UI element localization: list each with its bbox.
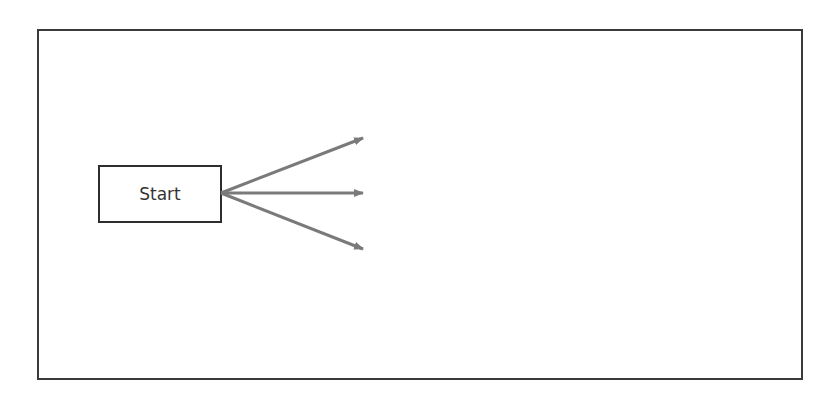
start-node: Start [98, 165, 222, 223]
start-node-label: Start [139, 184, 181, 204]
